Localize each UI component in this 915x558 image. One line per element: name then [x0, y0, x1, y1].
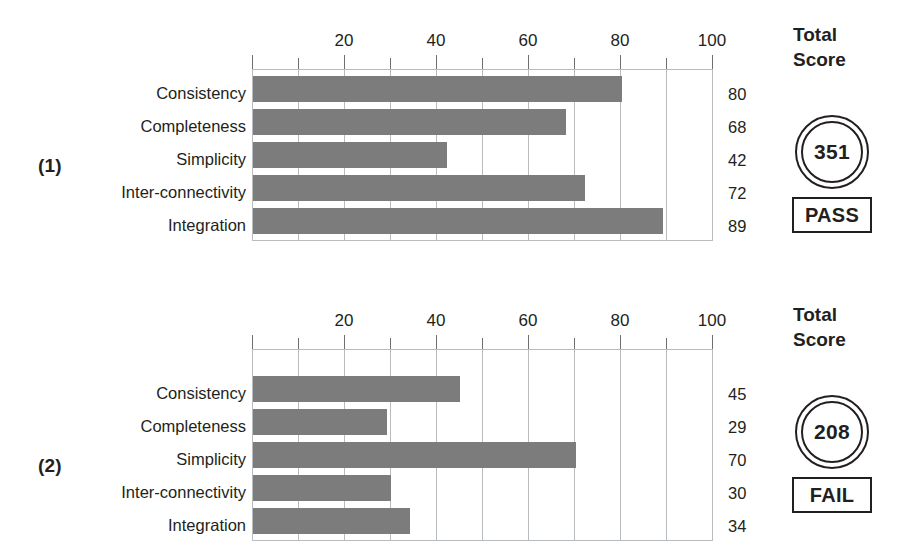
x-tick-label: 100	[698, 311, 726, 331]
total-score-value: 351	[797, 117, 867, 187]
category-label: Completeness	[60, 118, 246, 135]
x-tick-label: 80	[611, 311, 630, 331]
bar	[253, 409, 387, 435]
chart-panel-1: (1) Consistency Completeness Simplicity …	[0, 0, 915, 280]
value-label: 68	[728, 118, 746, 137]
bar	[253, 175, 585, 201]
tickmark	[436, 55, 437, 69]
value-label: 72	[728, 184, 746, 203]
total-score-title-line2: Score	[793, 48, 846, 71]
category-label: Inter-connectivity	[60, 484, 246, 501]
value-label: 89	[728, 217, 746, 236]
total-score-circle-1: 351	[795, 115, 869, 189]
x-tick-label: 20	[335, 31, 354, 51]
tickmark	[620, 55, 621, 69]
value-label: 42	[728, 151, 746, 170]
tickmark	[482, 338, 483, 349]
value-label: 70	[728, 451, 746, 470]
value-label: 29	[728, 418, 746, 437]
bar	[253, 76, 622, 102]
gridline	[666, 70, 667, 240]
bar	[253, 142, 447, 168]
category-label: Consistency	[60, 85, 246, 102]
category-label: Inter-connectivity	[60, 184, 246, 201]
tickmark	[252, 55, 253, 69]
total-score-title-line1: Total	[793, 23, 837, 46]
tickmark	[298, 58, 299, 69]
bar	[253, 508, 410, 534]
value-label: 45	[728, 385, 746, 404]
total-score-value: 208	[797, 397, 867, 467]
tickmark	[436, 335, 437, 349]
plot-area-2	[252, 349, 713, 541]
tickmark	[390, 58, 391, 69]
total-score-title-line1: Total	[793, 303, 837, 326]
tickmark	[666, 338, 667, 349]
tickmark	[712, 55, 713, 69]
bar	[253, 376, 460, 402]
bar	[253, 208, 663, 234]
category-label: Integration	[60, 217, 246, 234]
category-label: Integration	[60, 517, 246, 534]
tickmark	[482, 58, 483, 69]
category-label: Simplicity	[60, 151, 246, 168]
x-tick-label: 20	[335, 311, 354, 331]
x-tick-label: 40	[427, 311, 446, 331]
total-score-title-line2: Score	[793, 328, 846, 351]
tickmark	[712, 335, 713, 349]
x-tick-label: 60	[519, 31, 538, 51]
verdict-badge-1: PASS	[792, 197, 872, 233]
bar	[253, 109, 566, 135]
verdict-badge-2: FAIL	[792, 477, 872, 513]
value-label: 80	[728, 85, 746, 104]
gridline	[620, 350, 621, 540]
tickmark	[252, 335, 253, 349]
tickmark	[344, 335, 345, 349]
tickmark	[620, 335, 621, 349]
category-label: Consistency	[60, 385, 246, 402]
tickmark	[390, 338, 391, 349]
category-label: Completeness	[60, 418, 246, 435]
tickmark	[528, 55, 529, 69]
x-tick-label: 60	[519, 311, 538, 331]
total-score-circle-2: 208	[795, 395, 869, 469]
tickmark	[574, 338, 575, 349]
tickmark	[574, 58, 575, 69]
value-label: 34	[728, 517, 746, 536]
tickmark	[344, 55, 345, 69]
plot-area-1	[252, 69, 713, 241]
value-label: 30	[728, 484, 746, 503]
bar	[253, 475, 391, 501]
x-tick-label: 40	[427, 31, 446, 51]
tickmark	[528, 335, 529, 349]
category-label: Simplicity	[60, 451, 246, 468]
chart-panel-2: (2) Consistency Completeness Simplicity …	[0, 280, 915, 558]
gridline	[666, 350, 667, 540]
x-tick-label: 80	[611, 31, 630, 51]
tickmark	[298, 338, 299, 349]
bar	[253, 442, 576, 468]
tickmark	[666, 58, 667, 69]
x-tick-label: 100	[698, 31, 726, 51]
